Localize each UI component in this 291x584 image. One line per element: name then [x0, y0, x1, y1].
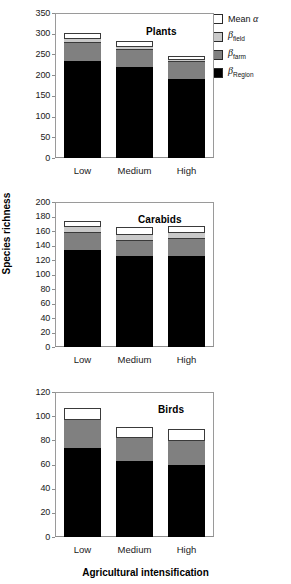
bar-low[interactable] — [64, 202, 101, 347]
y-tick-mark — [52, 275, 55, 276]
x-tick-label-low: Low — [56, 355, 109, 365]
bar-segment-farm — [64, 232, 101, 249]
legend-item-beta-region: βRegion — [213, 65, 291, 80]
y-tick-label: 200 — [0, 198, 50, 207]
y-tick-mark — [52, 537, 55, 538]
bar-segment-region — [168, 256, 205, 347]
legend-item-beta-farm: βfarm — [213, 47, 291, 62]
x-tick-label-high: High — [160, 355, 213, 365]
y-tick-mark — [52, 158, 55, 159]
y-tick-label: 50 — [0, 133, 50, 142]
y-tick-label: 100 — [0, 112, 50, 121]
legend-item-beta-field: βfield — [213, 29, 291, 44]
y-tick-mark — [52, 260, 55, 261]
bar-segment-region — [168, 465, 205, 538]
legend-label-mean-alpha: Mean α — [228, 14, 258, 24]
bar-medium[interactable] — [116, 392, 153, 537]
x-tick-label-medium: Medium — [108, 355, 161, 365]
bar-segment-region — [64, 250, 101, 347]
y-tick-label: 200 — [0, 71, 50, 80]
bar-segment-region — [64, 448, 101, 537]
bar-segment-alpha — [116, 427, 153, 437]
panel-title: Birds — [158, 404, 184, 415]
y-tick-mark — [52, 137, 55, 138]
bar-segment-farm — [168, 238, 205, 256]
y-tick-label: 100 — [0, 270, 50, 279]
bar-low[interactable] — [64, 392, 101, 537]
y-tick-label: 250 — [0, 50, 50, 59]
x-tick-label-low: Low — [56, 166, 109, 176]
bar-segment-farm — [168, 61, 205, 79]
legend-item-mean-alpha: Mean α — [213, 11, 291, 26]
y-tick-mark — [52, 202, 55, 203]
bar-segment-farm — [116, 49, 153, 66]
y-tick-mark — [52, 13, 55, 14]
y-tick-label: 0 — [0, 343, 50, 352]
bar-segment-farm — [116, 240, 153, 256]
y-tick-mark — [52, 75, 55, 76]
y-tick-mark — [52, 96, 55, 97]
x-tick-label-medium: Medium — [108, 166, 161, 176]
bar-segment-region — [116, 256, 153, 347]
y-tick-label: 0 — [0, 154, 50, 163]
x-tick-label-medium: Medium — [108, 545, 161, 555]
legend-swatch-beta-region — [213, 68, 223, 78]
x-tick-label-high: High — [160, 545, 213, 555]
y-tick-label: 80 — [0, 436, 50, 445]
bar-segment-farm — [168, 440, 205, 464]
figure-root: Mean α βfield βfarm βRegion Species rich… — [0, 0, 291, 584]
y-tick-mark — [52, 246, 55, 247]
y-tick-label: 120 — [0, 256, 50, 265]
panel-title: Plants — [146, 26, 177, 37]
bar-low[interactable] — [64, 13, 101, 158]
x-tick-label-high: High — [160, 166, 213, 176]
y-tick-mark — [52, 217, 55, 218]
y-tick-mark — [52, 513, 55, 514]
y-tick-mark — [52, 440, 55, 441]
bar-segment-farm — [64, 419, 101, 448]
y-tick-label: 20 — [0, 328, 50, 337]
x-tick-label-low: Low — [56, 545, 109, 555]
bar-segment-region — [116, 67, 153, 158]
y-tick-mark — [52, 392, 55, 393]
y-tick-label: 40 — [0, 314, 50, 323]
y-tick-mark — [52, 231, 55, 232]
y-tick-mark — [52, 304, 55, 305]
y-tick-mark — [52, 347, 55, 348]
y-tick-label: 350 — [0, 9, 50, 18]
x-axis-title: Agricultural intensification — [0, 567, 291, 578]
bar-segment-farm — [64, 42, 101, 61]
bar-segment-region — [168, 79, 205, 158]
legend: Mean α βfield βfarm βRegion — [213, 11, 291, 83]
y-tick-label: 140 — [0, 241, 50, 250]
y-tick-label: 150 — [0, 91, 50, 100]
bar-segment-alpha — [168, 429, 205, 440]
y-tick-label: 40 — [0, 484, 50, 493]
y-tick-mark — [52, 465, 55, 466]
y-tick-label: 80 — [0, 285, 50, 294]
bar-segment-region — [116, 461, 153, 537]
legend-swatch-beta-field — [213, 32, 223, 42]
y-tick-label: 60 — [0, 460, 50, 469]
panel-title: Carabids — [138, 214, 182, 225]
bar-segment-alpha — [64, 408, 101, 419]
y-tick-mark — [52, 318, 55, 319]
y-tick-mark — [52, 416, 55, 417]
y-tick-mark — [52, 333, 55, 334]
legend-label-beta-farm: βfarm — [228, 48, 246, 62]
y-tick-label: 160 — [0, 227, 50, 236]
legend-swatch-beta-farm — [213, 50, 223, 60]
legend-label-beta-field: βfield — [228, 30, 245, 44]
y-tick-mark — [52, 34, 55, 35]
y-tick-label: 180 — [0, 212, 50, 221]
y-tick-mark — [52, 489, 55, 490]
y-tick-mark — [52, 117, 55, 118]
y-tick-mark — [52, 289, 55, 290]
y-tick-label: 300 — [0, 29, 50, 38]
y-tick-label: 120 — [0, 388, 50, 397]
y-tick-label: 60 — [0, 299, 50, 308]
legend-label-beta-region: βRegion — [228, 66, 254, 80]
y-tick-mark — [52, 54, 55, 55]
y-tick-label: 20 — [0, 508, 50, 517]
legend-swatch-mean-alpha — [213, 14, 223, 24]
